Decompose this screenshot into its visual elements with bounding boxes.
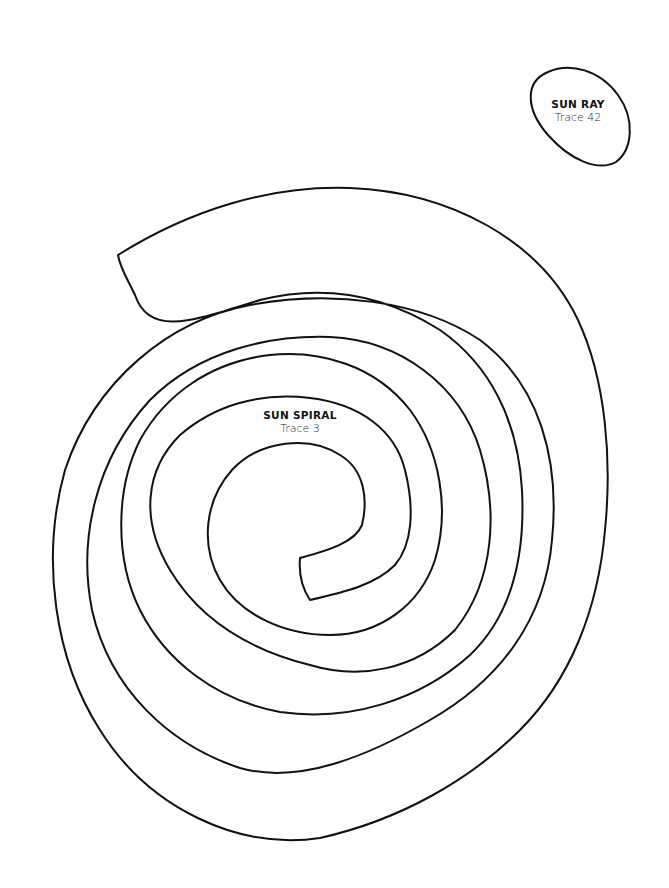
trace-shapes-drawing [0, 0, 669, 888]
sun-ray-subtitle: Trace 42 [538, 111, 618, 125]
sun-spiral-shape [53, 188, 608, 840]
sun-spiral-title: SUN SPIRAL [248, 409, 352, 422]
sun-ray-title: SUN RAY [538, 98, 618, 111]
sun-ray-label: SUN RAY Trace 42 [538, 98, 618, 125]
tracing-worksheet: SUN RAY Trace 42 SUN SPIRAL Trace 3 [0, 0, 669, 888]
sun-spiral-subtitle: Trace 3 [248, 422, 352, 436]
sun-spiral-label: SUN SPIRAL Trace 3 [248, 409, 352, 436]
